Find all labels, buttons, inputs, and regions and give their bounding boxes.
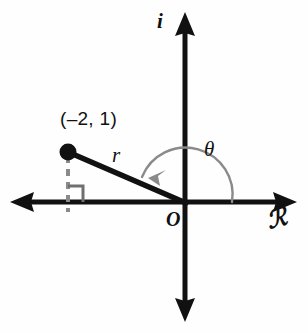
imaginary-axis-label: i <box>157 11 163 32</box>
imaginary-axis-bottom-arrowhead <box>175 298 195 322</box>
figure-canvas <box>0 0 308 334</box>
argand-diagram-figure: i ℛ O (–2, 1) r θ <box>0 0 308 334</box>
angle-label: θ <box>204 139 214 160</box>
plotted-point-marker <box>60 144 77 161</box>
imaginary-axis-top-arrowhead <box>175 12 195 36</box>
angle-arc-arrowhead <box>148 170 166 186</box>
radius-label: r <box>112 145 120 166</box>
real-axis-left-arrowhead <box>10 192 34 212</box>
point-coordinate-label: (–2, 1) <box>60 109 117 128</box>
radius-group <box>68 152 186 203</box>
radius-segment <box>68 152 186 203</box>
origin-label: O <box>166 209 180 229</box>
axes-group <box>10 12 297 322</box>
